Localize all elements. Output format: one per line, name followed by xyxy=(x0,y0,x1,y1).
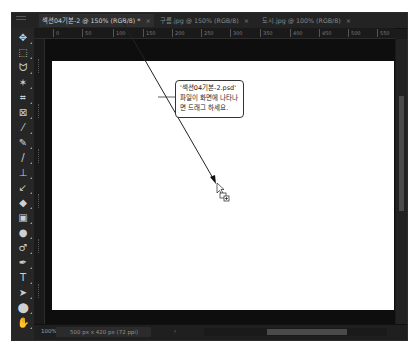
drag-annotation-overlay xyxy=(0,0,418,352)
callout-line: '섹션04기본-2.psd' xyxy=(180,83,243,93)
arrowhead-icon xyxy=(210,175,216,184)
instruction-callout: '섹션04기본-2.psd' 파일이 화면에 나타나 면 드래그 하세요. xyxy=(175,80,244,118)
drag-cursor-icon xyxy=(217,183,229,201)
callout-line: 면 드래그 하세요. xyxy=(180,103,243,113)
callout-line: 파일이 화면에 나타나 xyxy=(180,93,243,103)
